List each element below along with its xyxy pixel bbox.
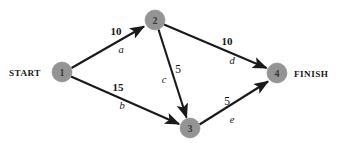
edge-d-2-to-4[interactable] — [164, 25, 267, 69]
node-3[interactable]: 3 — [180, 118, 200, 138]
edge-group — [71, 25, 268, 125]
edge-a-activity-label: a — [118, 44, 123, 55]
network-graph-canvas: 1 2 3 4 START FINISH 10 a 15 — [0, 0, 343, 149]
edge-b-activity-label: b — [119, 100, 124, 111]
start-label: START — [9, 68, 41, 78]
edge-c-weight-label: 5 — [175, 63, 181, 75]
edge-d-weight-label: 10 — [222, 35, 234, 47]
node-2-label: 2 — [153, 15, 158, 26]
node-3-label: 3 — [188, 123, 193, 134]
edge-b-weight-label: 15 — [113, 81, 125, 93]
project-network-diagram: 1 2 3 4 START FINISH 10 a 15 — [0, 0, 343, 149]
finish-label: FINISH — [294, 69, 328, 79]
edge-a-weight-label: 10 — [111, 25, 123, 37]
node-4[interactable]: 4 — [267, 63, 287, 83]
edge-e-activity-label: e — [230, 114, 235, 125]
node-4-label: 4 — [275, 68, 280, 79]
node-1[interactable]: 1 — [52, 62, 72, 82]
edge-d-activity-label: d — [229, 55, 235, 66]
node-2[interactable]: 2 — [145, 10, 165, 30]
edge-e-weight-label: 5 — [224, 95, 230, 107]
node-1-label: 1 — [60, 67, 65, 78]
edge-a-1-to-2[interactable] — [72, 27, 145, 69]
edge-c-activity-label: c — [162, 74, 167, 85]
